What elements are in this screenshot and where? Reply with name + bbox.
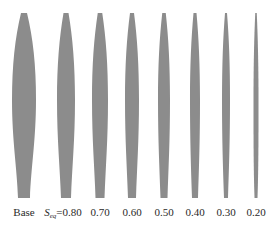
- blade-diagram: [0, 0, 278, 228]
- blade-shape-0-60: [125, 13, 139, 198]
- blade-label-0-40: 0.40: [185, 205, 204, 219]
- blade-label-base: Base: [13, 205, 34, 219]
- blade-label-0-20: 0.20: [246, 205, 265, 219]
- blade-label-0-50: 0.50: [154, 205, 173, 219]
- blade-label-0-30: 0.30: [216, 205, 235, 219]
- blade-shape-base: [12, 13, 36, 198]
- blade-shape-0-50: [158, 13, 170, 198]
- blade-label-0-60: 0.60: [122, 205, 141, 219]
- blade-shape-0-70: [92, 13, 108, 198]
- blade-label-0-70: 0.70: [90, 205, 109, 219]
- blade-label-0-80: Seq=0.80: [44, 205, 82, 223]
- blade-shape-0-30: [222, 13, 230, 198]
- blade-shape-0-40: [190, 13, 200, 198]
- blade-shape-0-20: [254, 13, 259, 198]
- blade-shape-0-80: [57, 13, 75, 198]
